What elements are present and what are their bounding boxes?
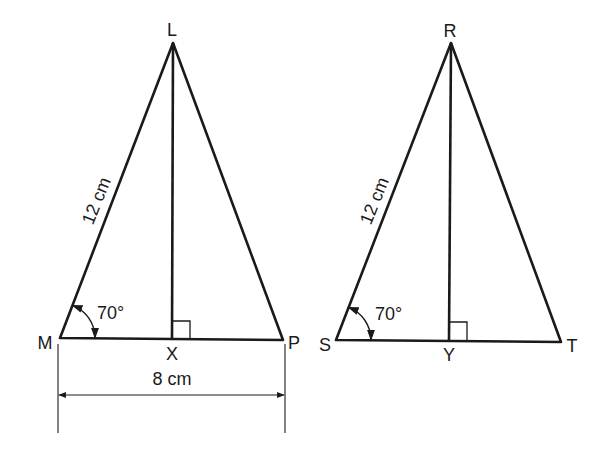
angle-label-m: 70°: [97, 303, 124, 323]
altitude-lx: [172, 43, 173, 339]
vertex-label-m: M: [38, 333, 53, 353]
foot-label-x: X: [166, 344, 178, 364]
right-angle-marker-y: [449, 322, 467, 340]
vertex-label-r: R: [444, 21, 457, 41]
diagram-canvas: L M P X 70° 12 cm 8 cm R S T Y 70° 12 cm: [0, 0, 604, 459]
angle-arc-s: [349, 307, 371, 340]
angle-label-s: 70°: [375, 304, 402, 324]
base-label-mp: 8 cm: [152, 369, 191, 389]
vertex-label-t: T: [567, 336, 578, 356]
angle-arc-m: [73, 305, 96, 338]
vertex-label-l: L: [167, 20, 177, 40]
side-label-sr: 12 cm: [356, 174, 393, 227]
altitude-ry: [449, 43, 451, 340]
foot-label-y: Y: [443, 345, 455, 365]
side-label-lm: 12 cm: [78, 174, 115, 227]
vertex-label-p: P: [288, 333, 300, 353]
triangle-lmp: L M P X 70° 12 cm 8 cm: [38, 20, 301, 433]
right-angle-marker-x: [172, 321, 190, 339]
triangle-rst: R S T Y 70° 12 cm: [319, 21, 578, 365]
vertex-label-s: S: [319, 335, 331, 355]
